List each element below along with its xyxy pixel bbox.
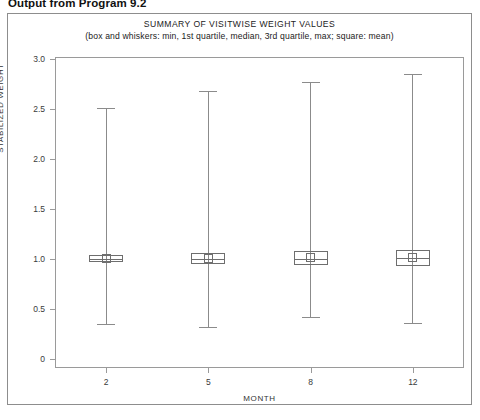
whisker-cap-min — [302, 317, 320, 318]
x-tick-mark — [106, 368, 107, 373]
whisker-cap-max — [199, 91, 217, 92]
mean-square — [408, 253, 417, 262]
whisker-cap-min — [404, 323, 422, 324]
whisker-cap-min — [97, 324, 115, 325]
y-tick-mark — [50, 309, 55, 310]
y-tick-mark — [50, 109, 55, 110]
y-tick-label: 1.0 — [15, 254, 45, 264]
box-plot: STABILIZED WEIGHT 3.02.52.01.51.00.50 25… — [0, 0, 480, 420]
y-tick-label: 0 — [15, 354, 45, 364]
whisker-line — [106, 108, 107, 324]
whisker-line — [310, 82, 311, 317]
x-tick-label: 8 — [291, 377, 331, 387]
mean-square — [306, 253, 315, 262]
y-tick-label: 2.5 — [15, 104, 45, 114]
whisker-cap-max — [404, 74, 422, 75]
x-tick-label: 2 — [86, 377, 126, 387]
y-tick-mark — [50, 259, 55, 260]
whisker-line — [208, 91, 209, 327]
y-tick-label: 2.0 — [15, 154, 45, 164]
y-tick-mark — [50, 359, 55, 360]
x-tick-label: 5 — [188, 377, 228, 387]
x-tick-label: 12 — [393, 377, 433, 387]
y-tick-label: 3.0 — [15, 54, 45, 64]
x-tick-mark — [413, 368, 414, 373]
y-tick-mark — [50, 209, 55, 210]
whisker-line — [412, 74, 413, 323]
whisker-cap-max — [97, 108, 115, 109]
whisker-cap-min — [199, 327, 217, 328]
y-tick-label: 1.5 — [15, 204, 45, 214]
mean-square — [204, 254, 213, 263]
x-tick-mark — [311, 368, 312, 373]
y-tick-mark — [50, 159, 55, 160]
y-tick-label: 0.5 — [15, 304, 45, 314]
x-tick-mark — [208, 368, 209, 373]
mean-square — [102, 254, 111, 263]
whisker-cap-max — [302, 82, 320, 83]
y-tick-mark — [50, 59, 55, 60]
x-axis-title: MONTH — [55, 394, 464, 403]
plot-frame — [55, 57, 464, 368]
y-axis-title: STABILIZED WEIGHT — [0, 48, 5, 168]
